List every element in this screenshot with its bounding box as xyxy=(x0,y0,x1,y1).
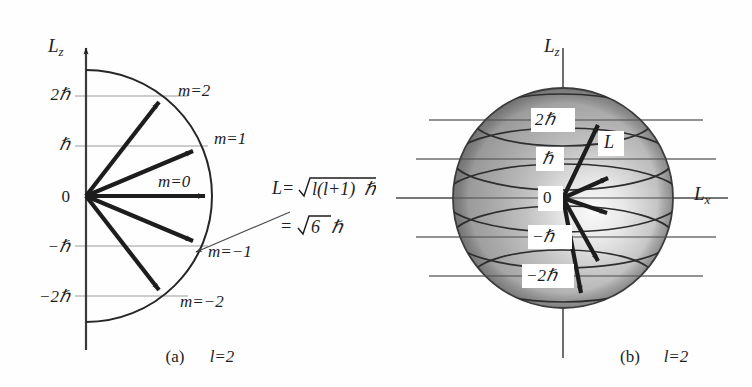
tick-label-h: ℏ xyxy=(59,135,71,154)
panel-b-caption: (b) l=2 xyxy=(620,347,689,366)
tick-label-2h: 2ℏ xyxy=(51,85,72,104)
panel-b-diagram: 2ℏ ℏ 0 −ℏ −2ℏ L Lz Lx (b) l=2 xyxy=(376,0,752,387)
panel-a-caption: (a) l=2 xyxy=(166,347,235,366)
tick-label-minus-h: −ℏ xyxy=(48,237,71,256)
tick-b-minus-2h: −2ℏ xyxy=(526,266,558,285)
annotation-radicand-2: 6 xyxy=(311,217,320,237)
panel-b-lx-axis-label: Lx xyxy=(693,183,711,207)
tick-label-zero: 0 xyxy=(62,187,71,206)
tick-b-1h: ℏ xyxy=(542,149,554,168)
tick-label-minus-2h: −2ℏ xyxy=(39,287,71,306)
panel-a-caption-prefix: (a) xyxy=(166,347,185,366)
annotation-unit-2: ℏ xyxy=(331,217,344,237)
annotation-radicand-1: l(l+1) xyxy=(312,179,355,200)
panel-b-vector-label: L xyxy=(598,131,624,156)
angular-momentum-figure: Lz 2ℏ ℏ 0 −ℏ −2ℏ m=2 m=1 m=0 m=−1 m=−2 L… xyxy=(0,0,752,387)
panel-a-lz-axis-label: Lz xyxy=(47,35,64,59)
panel-a-caption-value: l=2 xyxy=(210,347,235,366)
tick-b-2h: 2ℏ xyxy=(535,110,556,129)
m-label-1: m=1 xyxy=(214,129,246,148)
annotation-unit-1: ℏ xyxy=(364,179,376,199)
m-label-minus-2: m=−2 xyxy=(180,292,224,311)
vector-label-L: L xyxy=(603,132,614,152)
annotation-lhs-2: = xyxy=(280,216,292,236)
tick-b-0: 0 xyxy=(543,188,552,207)
panel-a-vectors xyxy=(86,102,205,290)
tick-b-minus-1h: −ℏ xyxy=(532,227,555,246)
panel-b-caption-prefix: (b) xyxy=(620,347,640,366)
annotation-lhs-1: L= xyxy=(271,178,294,198)
panel-a-magnitude-annotation: L= l(l+1) ℏ = 6 ℏ xyxy=(271,178,376,237)
m-label-0: m=0 xyxy=(158,172,191,191)
m-label-minus-1: m=−1 xyxy=(208,242,252,261)
panel-a-tick-labels: 2ℏ ℏ 0 −ℏ −2ℏ xyxy=(39,85,71,306)
panel-b-caption-value: l=2 xyxy=(664,347,689,366)
panel-a-diagram: Lz 2ℏ ℏ 0 −ℏ −2ℏ m=2 m=1 m=0 m=−1 m=−2 L… xyxy=(0,0,376,387)
m-label-2: m=2 xyxy=(178,81,211,100)
panel-b-lz-axis-label: Lz xyxy=(543,35,560,59)
